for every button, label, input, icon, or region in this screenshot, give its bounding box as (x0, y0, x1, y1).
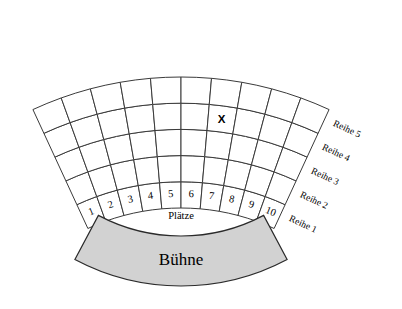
seat-cell[interactable] (150, 77, 181, 104)
seat-number: 5 (168, 188, 174, 199)
seat-cell[interactable] (125, 104, 155, 133)
row-label: Reihe 2 (299, 190, 330, 211)
seat-cell[interactable] (129, 131, 157, 160)
seat-cell[interactable] (90, 82, 124, 114)
seat-cell[interactable] (153, 103, 181, 130)
stage-label: Bühne (159, 250, 203, 269)
seat-cell[interactable] (134, 157, 160, 186)
row-label: Reihe 3 (310, 166, 341, 187)
seat-number: 6 (188, 188, 194, 199)
seats-axis-caption: Plätze (168, 210, 194, 221)
seat-cell[interactable] (155, 129, 181, 156)
seat-cell[interactable] (181, 103, 209, 130)
stage-group: Bühne (75, 215, 287, 286)
row-label: Reihe 4 (321, 142, 352, 163)
seat-cell[interactable] (181, 77, 212, 104)
selected-seat-marker: X (218, 113, 226, 125)
selected-seat-marker-group: X (218, 113, 226, 125)
row-label: Reihe 5 (332, 118, 363, 139)
seat-grid (33, 77, 329, 228)
seat-cell[interactable] (209, 78, 242, 108)
seating-chart-svg: Reihe 1Reihe 2Reihe 3Reihe 4Reihe 5 1234… (0, 0, 402, 309)
seat-cell[interactable] (120, 78, 153, 108)
seat-cell[interactable] (181, 129, 207, 156)
seat-cell[interactable] (157, 156, 181, 183)
seat-cell[interactable] (181, 156, 205, 183)
seating-plan-diagram: Reihe 1Reihe 2Reihe 3Reihe 4Reihe 5 1234… (0, 0, 402, 309)
row-label: Reihe 1 (288, 213, 319, 234)
